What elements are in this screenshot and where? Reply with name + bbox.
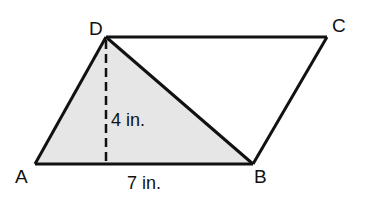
base-label: 7 in. xyxy=(127,173,161,193)
parallelogram-diagram: D C A B 4 in. 7 in. xyxy=(0,0,372,200)
vertex-label-b: B xyxy=(254,166,267,187)
height-label: 4 in. xyxy=(111,110,145,130)
shaded-triangle-abd xyxy=(35,37,253,164)
vertex-label-c: C xyxy=(332,15,346,36)
vertex-label-a: A xyxy=(15,166,28,187)
vertex-label-d: D xyxy=(89,18,103,39)
side-bc xyxy=(253,37,327,164)
